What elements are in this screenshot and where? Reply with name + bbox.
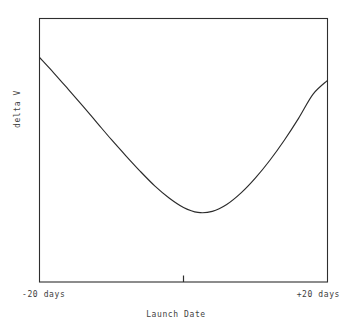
figure-background	[0, 0, 352, 329]
plot-canvas	[0, 0, 352, 329]
x-axis-tick-label-right: +20 days	[282, 291, 340, 299]
y-axis-label: delta V	[14, 90, 22, 128]
chart-figure: delta V -20 days +20 days Launch Date	[0, 0, 352, 329]
x-axis-tick-label-left: -20 days	[22, 291, 65, 299]
x-axis-label: Launch Date	[0, 311, 352, 319]
